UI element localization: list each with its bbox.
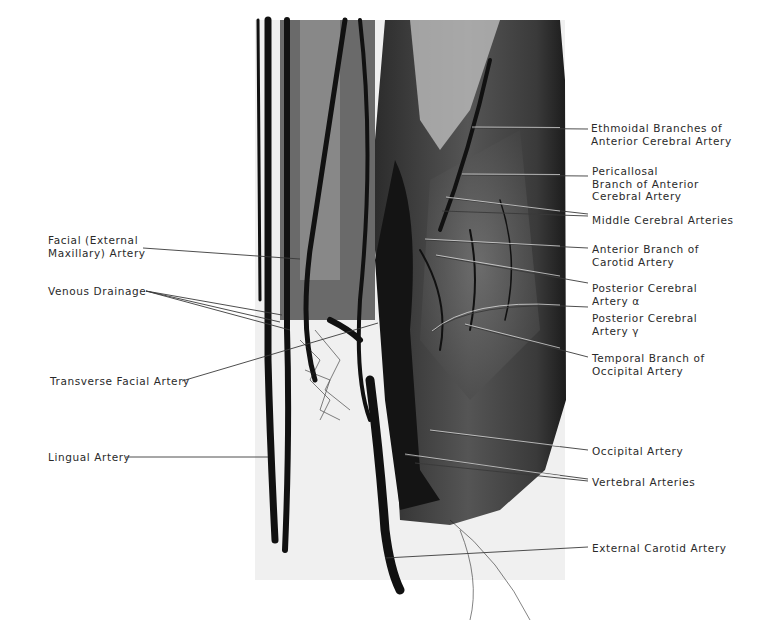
label-temporal-branch: Temporal Branch of Occipital Artery <box>592 352 705 377</box>
label-line: External Carotid Artery <box>592 542 727 555</box>
label-line: Posterior Cerebral <box>592 282 697 295</box>
label-line: Posterior Cerebral <box>592 312 697 325</box>
label-line: Cerebral Artery <box>592 190 699 203</box>
label-line: Transverse Facial Artery <box>50 375 190 388</box>
label-line: Ethmoidal Branches of <box>591 122 732 135</box>
label-line: Anterior Branch of <box>592 243 699 256</box>
label-line: Vertebral Arteries <box>592 476 695 489</box>
label-line: Artery α <box>592 295 697 308</box>
label-lingual-artery: Lingual Artery <box>48 451 130 464</box>
label-posterior-cerebral-gamma: Posterior Cerebral Artery γ <box>592 312 697 337</box>
label-middle-cerebral-arteries: Middle Cerebral Arteries <box>592 214 734 227</box>
label-posterior-cerebral-alpha: Posterior Cerebral Artery α <box>592 282 697 307</box>
label-line: Carotid Artery <box>592 256 699 269</box>
label-external-carotid-artery: External Carotid Artery <box>592 542 727 555</box>
label-line: Artery γ <box>592 325 697 338</box>
label-transverse-facial-artery: Transverse Facial Artery <box>50 375 190 388</box>
label-line: Occipital Artery <box>592 365 705 378</box>
label-line: Middle Cerebral Arteries <box>592 214 734 227</box>
label-line: Venous Drainage <box>48 285 146 298</box>
label-line: Branch of Anterior <box>592 178 699 191</box>
label-line: Occipital Artery <box>592 445 683 458</box>
label-line: Maxillary) Artery <box>48 247 146 260</box>
label-line: Pericallosal <box>592 165 699 178</box>
label-venous-drainage: Venous Drainage <box>48 285 146 298</box>
label-pericallosal-branch: Pericallosal Branch of Anterior Cerebral… <box>592 165 699 203</box>
label-anterior-branch-carotid: Anterior Branch of Carotid Artery <box>592 243 699 268</box>
label-line: Temporal Branch of <box>592 352 705 365</box>
label-ethmoidal-branches: Ethmoidal Branches of Anterior Cerebral … <box>591 122 732 147</box>
label-line: Facial (External <box>48 234 146 247</box>
label-vertebral-arteries: Vertebral Arteries <box>592 476 695 489</box>
label-line: Lingual Artery <box>48 451 130 464</box>
label-facial-artery: Facial (External Maxillary) Artery <box>48 234 146 259</box>
arteriogram-figure: Facial (External Maxillary) Artery Venou… <box>0 0 757 635</box>
label-occipital-artery: Occipital Artery <box>592 445 683 458</box>
label-line: Anterior Cerebral Artery <box>591 135 732 148</box>
